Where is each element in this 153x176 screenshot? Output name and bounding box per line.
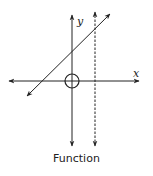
function-line: [27, 14, 110, 96]
figure-caption: Function: [0, 152, 153, 165]
y-axis-label: y: [76, 15, 84, 28]
function-graph: x y: [0, 0, 153, 176]
x-axis-label: x: [133, 67, 140, 80]
